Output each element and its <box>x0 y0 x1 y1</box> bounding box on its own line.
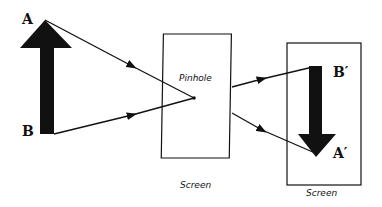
label-b: B <box>22 123 34 139</box>
outgoing-rays <box>232 67 315 153</box>
pinhole-screen-caption: Screen <box>180 180 211 190</box>
image-screen <box>287 43 361 185</box>
image-arrow <box>298 66 336 157</box>
label-a: A <box>21 11 34 27</box>
object-arrow <box>20 20 72 134</box>
pinhole-label: Pinhole <box>179 73 212 83</box>
pinhole-point <box>192 96 196 100</box>
label-b-prime: B′ <box>333 64 349 80</box>
incoming-rays <box>45 20 194 134</box>
pinhole-screen <box>161 34 231 158</box>
pinhole-diagram: A B Pinhole Screen B′ A′ Screen <box>0 0 382 207</box>
image-screen-caption: Screen <box>306 188 337 198</box>
label-a-prime: A′ <box>332 145 348 161</box>
